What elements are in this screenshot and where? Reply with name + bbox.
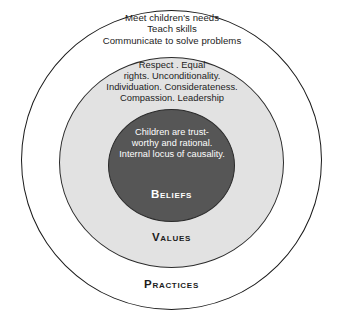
practices-description: Meet children's needs Teach skills Commu… <box>47 12 297 46</box>
beliefs-label: Beliefs <box>108 188 235 200</box>
values-description: Respect . Equal rights. Unconditionality… <box>62 59 282 103</box>
beliefs-description: Children are trust- worthy and rational.… <box>100 127 244 160</box>
beliefs-circle <box>108 109 235 222</box>
concentric-circles-diagram: Meet children's needs Teach skills Commu… <box>0 0 344 332</box>
values-label: Values <box>59 231 284 243</box>
practices-label: Practices <box>21 278 322 290</box>
